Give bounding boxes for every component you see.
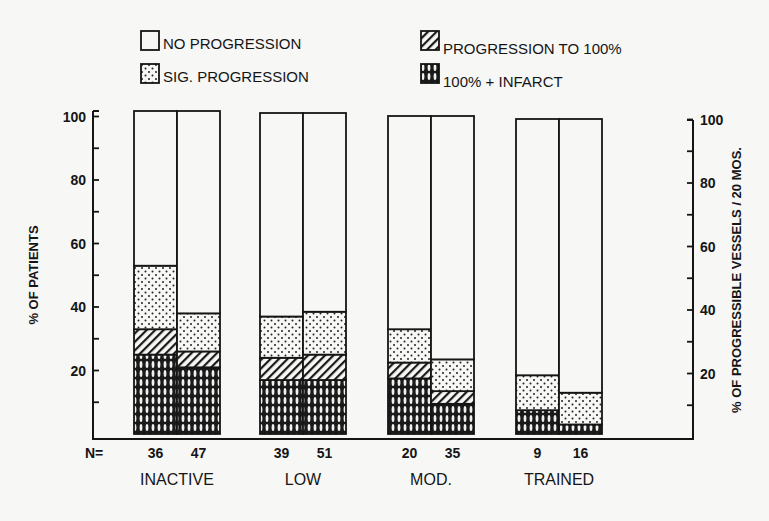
bar-segment-dots (559, 393, 602, 425)
bar-trained-9 (516, 119, 559, 434)
bar-low-39 (260, 113, 303, 434)
bar-segment-dots (177, 313, 220, 351)
legend-label: PROGRESSION TO 100% (443, 40, 622, 57)
bar-segment-crosshatch (388, 378, 431, 434)
n-value: 51 (317, 445, 333, 461)
bar-segment-diagonal (431, 391, 474, 404)
y-tick-label-right: 20 (700, 366, 716, 382)
bar-segment-dots (303, 312, 346, 355)
bar-segment-diagonal (303, 355, 346, 380)
n-label: N= (85, 445, 103, 461)
y-tick-label-right: 40 (700, 302, 716, 318)
bar-mod-35 (431, 116, 474, 434)
n-value: 16 (573, 445, 589, 461)
bar-segment-blank (303, 113, 346, 312)
bar-segment-blank (431, 116, 474, 359)
group-label: INACTIVE (140, 471, 214, 488)
y-tick-label-right: 80 (700, 175, 716, 191)
y-axis-label-right: % OF PROGRESSIBLE VESSELS / 20 MOS. (729, 147, 744, 413)
bar-segment-diagonal (134, 329, 177, 354)
y-tick-label: 80 (70, 172, 86, 188)
left-axis: 20406080100 % OF PATIENTS (26, 109, 99, 440)
bar-segment-dots (431, 359, 474, 391)
bar-segment-blank (134, 111, 177, 266)
n-value: 35 (445, 445, 461, 461)
x-axis-labels: N= 364739512035916INACTIVELOWMOD.TRAINED (85, 445, 594, 488)
bar-inactive-36 (134, 111, 177, 434)
bar-inactive-47 (177, 111, 220, 434)
bar-segment-diagonal (177, 351, 220, 367)
bar-segment-blank (516, 119, 559, 375)
legend-item-infarct: 100% + INFARCT (421, 64, 563, 90)
bar-segment-crosshatch (516, 410, 559, 434)
n-value: 39 (274, 445, 290, 461)
bar-trained-16 (559, 119, 602, 434)
n-value: 47 (191, 445, 207, 461)
bars (134, 111, 602, 434)
y-tick-label: 60 (70, 236, 86, 252)
bar-segment-dots (260, 317, 303, 358)
y-tick-label: 100 (63, 109, 87, 125)
legend-swatch-diagonal (421, 31, 439, 50)
y-tick-label-right: 60 (700, 239, 716, 255)
bar-mod-20 (388, 116, 431, 434)
bar-segment-crosshatch (303, 380, 346, 434)
y-tick-label-right: 100 (700, 112, 724, 128)
bar-segment-crosshatch (559, 424, 602, 434)
y-tick-label: 20 (70, 363, 86, 379)
bar-segment-crosshatch (260, 380, 303, 434)
bar-segment-crosshatch (431, 404, 474, 434)
legend-item-no-progression: NO PROGRESSION (141, 31, 301, 52)
bar-segment-diagonal (388, 363, 431, 379)
bar-segment-crosshatch (177, 367, 220, 434)
legend-swatch-crosshatch (421, 64, 439, 83)
group-label: LOW (285, 471, 322, 488)
legend: NO PROGRESSION SIG. PROGRESSION PROGRESS… (141, 31, 622, 90)
y-tick-label: 40 (70, 299, 86, 315)
bar-segment-blank (388, 116, 431, 329)
bar-segment-dots (516, 375, 559, 410)
legend-item-progression-to-100: PROGRESSION TO 100% (421, 31, 622, 57)
bar-segment-dots (134, 266, 177, 330)
y-axis-label-left: % OF PATIENTS (26, 225, 41, 325)
legend-label: SIG. PROGRESSION (163, 68, 309, 85)
bar-segment-blank (559, 119, 602, 393)
legend-label: 100% + INFARCT (443, 73, 563, 90)
right-axis: 20406080100 % OF PROGRESSIBLE VESSELS / … (687, 112, 744, 440)
bar-segment-blank (260, 113, 303, 317)
bar-segment-dots (388, 329, 431, 362)
stacked-bar-chart: NO PROGRESSION SIG. PROGRESSION PROGRESS… (0, 0, 769, 521)
bar-segment-crosshatch (134, 355, 177, 434)
n-value: 9 (534, 445, 542, 461)
legend-swatch-blank (141, 31, 159, 50)
bar-segment-blank (177, 111, 220, 313)
legend-label: NO PROGRESSION (163, 35, 301, 52)
group-label: MOD. (410, 471, 452, 488)
n-value: 36 (148, 445, 164, 461)
bar-low-51 (303, 113, 346, 434)
legend-item-sig-progression: SIG. PROGRESSION (141, 64, 309, 85)
legend-swatch-dots (141, 64, 159, 83)
group-label: TRAINED (524, 471, 594, 488)
n-value: 20 (402, 445, 418, 461)
bar-segment-diagonal (260, 358, 303, 380)
